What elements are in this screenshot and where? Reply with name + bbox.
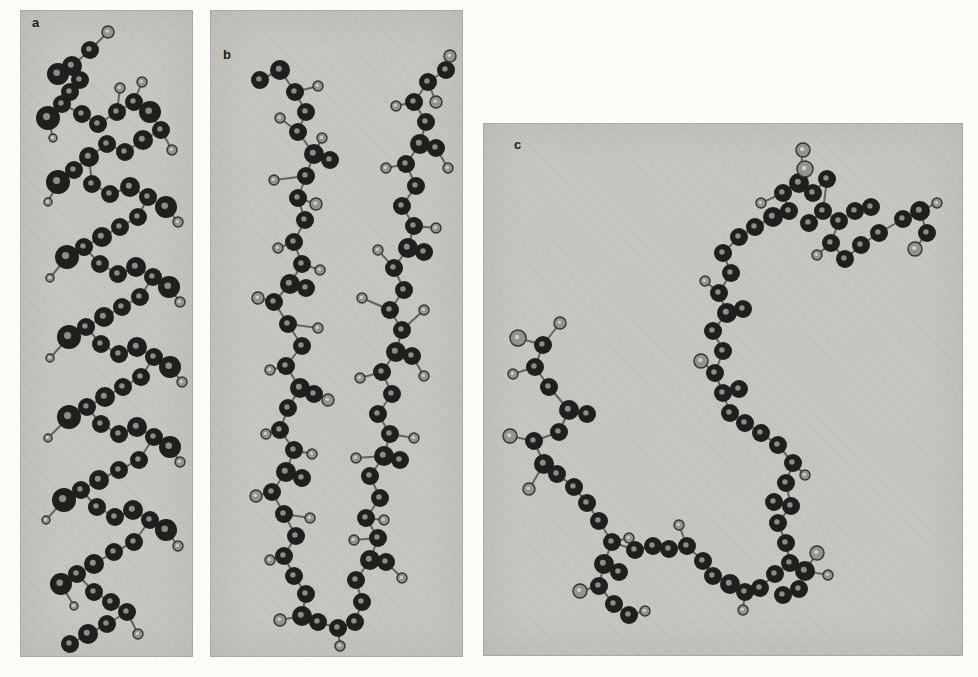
panel-a-helix-conformation: a — [20, 10, 193, 657]
molecule-a-drawing — [20, 10, 193, 657]
molecule-b-drawing — [210, 10, 463, 657]
molecular-model-figure: a b c — [0, 0, 978, 677]
panel-c-coil-conformation: c — [483, 123, 963, 656]
panel-a-label: a — [32, 16, 40, 29]
panel-c-label: c — [514, 138, 522, 151]
panel-b-extended-conformation: b — [210, 10, 463, 657]
panel-b-label: b — [223, 48, 231, 61]
molecule-c-drawing — [483, 123, 963, 656]
